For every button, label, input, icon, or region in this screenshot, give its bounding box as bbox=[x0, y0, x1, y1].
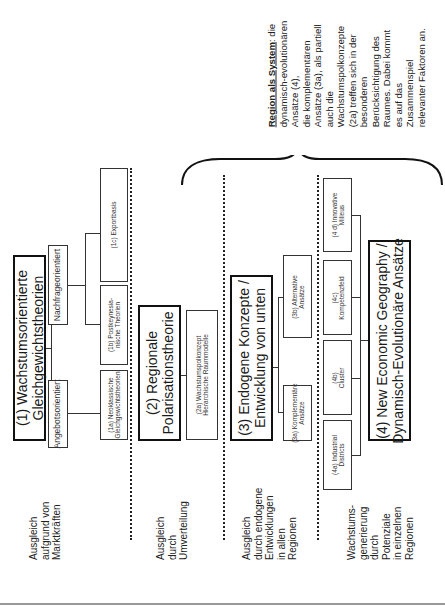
group-label: Nachfrageorientiert bbox=[53, 249, 63, 321]
sub-box-3a: (3a) Komplementäre Ansätze bbox=[283, 385, 312, 441]
side-label-band-1: Ausgleich aufgrund von Marktkräften bbox=[25, 460, 65, 560]
annotation-line: besonderen bbox=[358, 21, 370, 128]
sub-1b-line1: (1b) Postkeynesia- bbox=[107, 298, 114, 352]
side-label-line: generierung bbox=[357, 460, 369, 560]
main-box-3: (3) Endogene Konzepte / Entwicklung von … bbox=[230, 275, 273, 441]
annotation-line: Ansätze (4), bbox=[289, 21, 301, 128]
main-box-1-line2: Gleichgewichtstheorien bbox=[30, 270, 46, 426]
group-box-angebotsorientiert: Angebotsorientiert bbox=[48, 380, 68, 448]
connector bbox=[360, 215, 361, 456]
sub-1b-line2: nische Theorien bbox=[114, 298, 121, 352]
connector bbox=[68, 285, 85, 286]
sub-box-1a: (1a) Neoklassische Gleichgewichtstheorie… bbox=[100, 370, 128, 440]
connector bbox=[352, 297, 360, 298]
sub-3a-line2: Ansätze bbox=[298, 383, 305, 442]
side-label-line: Umverteilung bbox=[178, 460, 190, 560]
sub-4d-line2: Milieus bbox=[338, 193, 345, 238]
side-label-line: Ausgleich bbox=[155, 460, 167, 560]
connector bbox=[352, 378, 360, 379]
main-box-4: (4) New Economic Geography / Dynamisch-E… bbox=[368, 240, 411, 441]
side-label-line: in allen bbox=[276, 460, 288, 560]
sub-4b-line1: (4b) bbox=[330, 367, 337, 388]
annotation-line: Berücksichtigung des bbox=[369, 21, 381, 128]
main-box-3-line2: Entwicklung von unten bbox=[252, 280, 268, 436]
band-separator-1 bbox=[130, 168, 132, 540]
sub-3b-line2: Ansätze bbox=[298, 275, 305, 319]
side-label-band-2: Ausgleich durch Umverteilung bbox=[152, 460, 192, 560]
sub-4b-line2: Cluster bbox=[338, 367, 345, 388]
side-label-line: Wachstums- bbox=[346, 460, 358, 560]
side-label-line: Regionen bbox=[403, 460, 415, 560]
side-label-band-3: Ausgleich durch endogene Entwicklungen i… bbox=[237, 460, 303, 560]
side-label-line: in einzelnen bbox=[392, 460, 404, 560]
sub-box-3b: (3b) Alternative Ansätze bbox=[283, 255, 312, 338]
connector bbox=[352, 455, 360, 456]
side-label-line: Potenziale bbox=[380, 460, 392, 560]
annotation-region-als-system: Region als System: die dynamisch-evoluti… bbox=[256, 0, 436, 148]
main-box-1: (1) Wachstumsorientierte Gleichgewichtst… bbox=[13, 255, 46, 441]
connector bbox=[352, 215, 360, 216]
annotation-line: (2a) treffen sich in der bbox=[346, 21, 358, 128]
group-box-nachfrageorientiert: Nachfrageorientiert bbox=[48, 245, 68, 325]
connector bbox=[85, 233, 100, 234]
sub-box-1b: (1b) Postkeynesia- nische Theorien bbox=[100, 285, 128, 365]
side-label-band-4: Wachstums- generierung durch Potenziale … bbox=[340, 460, 420, 560]
main-box-2: (2) Regionale Polarisationstheorie bbox=[138, 305, 181, 441]
main-box-2-line2: Polarisationstheorie bbox=[160, 312, 176, 435]
side-label-line: Ausgleich bbox=[241, 460, 253, 560]
annotation-line: auch die bbox=[323, 21, 335, 128]
side-label-line: durch bbox=[166, 460, 178, 560]
connector bbox=[278, 297, 279, 413]
sub-4c-line2: Kompetenzfeld bbox=[338, 276, 345, 319]
annotation-line: die komplementären bbox=[300, 21, 312, 128]
main-box-1-line1: (1) Wachstumsorientierte bbox=[13, 270, 29, 426]
group-label: Angebotsorientiert bbox=[53, 380, 63, 449]
sub-3a-line1: (3a) Komplementäre bbox=[290, 383, 297, 442]
sub-1c-line1: (1c) Exportbasis bbox=[110, 202, 117, 249]
connector bbox=[360, 340, 368, 341]
sub-4c-line1: (4c) bbox=[330, 276, 337, 319]
annotation-line: relevanter Faktoren an. bbox=[415, 21, 427, 128]
main-box-4-line2: Dynamisch-Evolutionäre Ansätze bbox=[390, 238, 406, 443]
annotation-line: : die bbox=[266, 24, 277, 42]
sub-4a-line1: (4a) Industrial bbox=[330, 435, 337, 475]
annotation-line: es auf das bbox=[392, 21, 404, 128]
sub-box-4c: (4c) Kompetenzfeld bbox=[323, 260, 352, 335]
side-label-line: aufgrund von bbox=[39, 460, 51, 560]
side-label-line: durch endogene bbox=[253, 460, 265, 560]
side-label-line: Ausgleich bbox=[28, 460, 40, 560]
side-label-line: Entwicklungen bbox=[264, 460, 276, 560]
side-label-line: Regionen bbox=[287, 460, 299, 560]
annotation-line: Zusammenspiel bbox=[404, 21, 416, 128]
side-label-line: durch bbox=[369, 460, 381, 560]
band-separator-2 bbox=[223, 175, 225, 540]
sub-box-4b: (4b) Cluster bbox=[323, 340, 352, 415]
annotation-line: dynamisch-evolutionären bbox=[277, 21, 289, 128]
main-box-2-line1: (2) Regionale bbox=[143, 312, 159, 435]
main-box-4-line1: (4) New Economic Geography / bbox=[373, 238, 389, 443]
connector bbox=[88, 413, 100, 414]
curly-brace-icon bbox=[180, 155, 445, 195]
sub-2a-line1: (2a) Wachstumspolkonzept bbox=[195, 334, 202, 416]
connector bbox=[68, 413, 88, 414]
sub-2a-line2: Hierarchische Raummodelle bbox=[202, 334, 209, 416]
sub-box-2a: (2a) Wachstumspolkonzept Hierarchische R… bbox=[186, 310, 218, 440]
side-label-line: Marktkräften bbox=[51, 460, 63, 560]
connector bbox=[85, 324, 100, 325]
annotation-line: Raumes. Dabei kommt bbox=[381, 21, 393, 128]
annotation-line: Wachstumspolkonzepte bbox=[335, 21, 347, 128]
sub-1a-line1: (1a) Neoklassische bbox=[107, 371, 114, 438]
connector bbox=[85, 233, 86, 325]
sub-3b-line1: (3b) Alternative bbox=[290, 275, 297, 319]
main-box-3-line1: (3) Endogene Konzepte / bbox=[235, 280, 251, 436]
sub-1a-line2: Gleichgewichtstheorien bbox=[114, 371, 121, 438]
annotation-title: Region als System bbox=[266, 42, 277, 127]
band-separator-3 bbox=[317, 175, 319, 540]
sub-box-1c: (1c) Exportbasis bbox=[100, 168, 128, 282]
bottom-divider bbox=[0, 603, 445, 605]
sub-4d-line1: (4 d) Innovative bbox=[330, 193, 337, 238]
annotation-line: Ansätze (3a), als partiell bbox=[312, 21, 324, 128]
